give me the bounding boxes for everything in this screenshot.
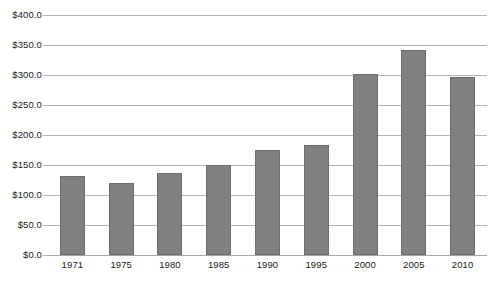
y-axis-tick-label: $200.0 <box>0 130 42 140</box>
x-axis-tick-label: 1990 <box>243 260 292 270</box>
y-axis-tick-label: $0.0 <box>0 250 42 260</box>
y-axis-tick-label: $400.0 <box>0 10 42 20</box>
bar <box>255 150 280 255</box>
y-axis-tick-label: $350.0 <box>0 40 42 50</box>
gridline <box>48 255 487 256</box>
y-axis-tick-label: $100.0 <box>0 190 42 200</box>
x-axis-tick-label: 1980 <box>146 260 195 270</box>
y-axis-tick-label: $250.0 <box>0 100 42 110</box>
x-axis-tick-label: 2010 <box>438 260 487 270</box>
bars-layer <box>48 8 487 255</box>
bar <box>157 173 182 255</box>
x-axis-tick-label: 1971 <box>48 260 97 270</box>
bar-chart: $0.0$50.0$100.0$150.0$200.0$250.0$300.0$… <box>0 0 495 283</box>
bar <box>109 183 134 255</box>
bar <box>60 176 85 255</box>
bar <box>304 145 329 255</box>
x-axis-tick-label: 2005 <box>389 260 438 270</box>
x-axis-tick-label: 2000 <box>341 260 390 270</box>
y-axis-tick-label: $150.0 <box>0 160 42 170</box>
bar <box>401 50 426 255</box>
bar <box>353 74 378 255</box>
y-axis-tick <box>43 255 48 256</box>
y-axis-tick-label: $300.0 <box>0 70 42 80</box>
bar <box>206 165 231 255</box>
x-axis-tick-label: 1985 <box>194 260 243 270</box>
y-axis-tick-label: $50.0 <box>0 220 42 230</box>
x-axis-tick-label: 1995 <box>292 260 341 270</box>
x-axis-tick-label: 1975 <box>97 260 146 270</box>
bar <box>450 77 475 255</box>
